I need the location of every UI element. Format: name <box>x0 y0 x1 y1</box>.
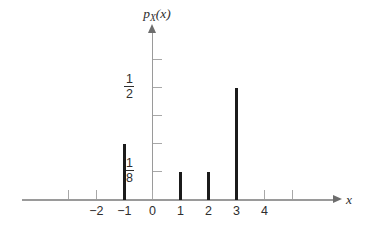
fraction-numerator: 1 <box>118 73 140 87</box>
y-axis-fraction-label: 18 <box>118 157 140 185</box>
x-axis-tick <box>96 190 97 199</box>
y-axis-tick <box>153 143 162 144</box>
pmf-stem <box>235 88 238 200</box>
y-axis-title-argument: (x) <box>156 6 171 21</box>
y-axis-tick <box>153 59 162 60</box>
x-axis-tick-label: 4 <box>247 204 281 218</box>
x-axis-tick <box>68 190 69 199</box>
y-axis-tick <box>153 171 162 172</box>
y-axis-fraction-label: 12 <box>118 73 140 101</box>
y-axis-tick <box>153 87 162 88</box>
x-axis-arrowhead-icon <box>333 195 342 203</box>
pmf-stem <box>179 172 182 200</box>
y-axis-arrowhead-icon <box>148 24 156 33</box>
x-axis-tick <box>152 190 153 199</box>
y-axis-title-base: p <box>143 6 150 21</box>
x-axis-title: x <box>346 192 352 208</box>
x-axis-tick <box>264 190 265 199</box>
x-axis-tick <box>292 190 293 199</box>
fraction-numerator: 1 <box>118 157 140 171</box>
pmf-stem <box>123 144 126 200</box>
pmf-stem <box>207 172 210 200</box>
y-axis-title: pX(x) <box>122 6 192 23</box>
pmf-stem-plot-figure: −2−101234 1812 pX(x) x <box>0 0 370 225</box>
y-axis-tick <box>153 115 162 116</box>
fraction-denominator: 2 <box>118 87 140 101</box>
fraction-denominator: 8 <box>118 171 140 185</box>
